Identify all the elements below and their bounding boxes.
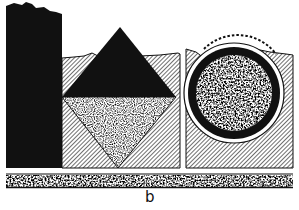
figure: b — [0, 0, 299, 210]
diamond-panel — [60, 27, 180, 170]
diagram-drawing — [0, 0, 299, 210]
solid-column — [6, 2, 62, 168]
circle-panel — [184, 35, 293, 168]
figure-label: b — [145, 190, 155, 205]
base-strip — [6, 174, 293, 188]
